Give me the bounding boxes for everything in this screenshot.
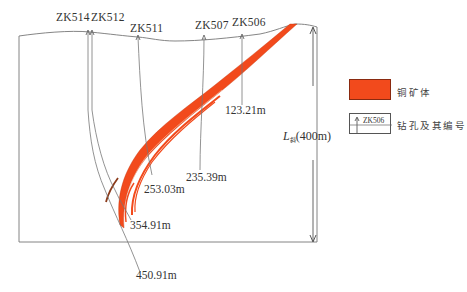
borehole-label-zk507: ZK507 <box>195 20 229 32</box>
depth-label-zk512: 354.91m <box>130 220 171 232</box>
legend-orebody-swatch <box>349 79 391 100</box>
orebody-main <box>119 24 297 228</box>
borehole-label-zk511: ZK511 <box>130 23 163 35</box>
legend-borehole-label: 钻孔及其编号 <box>397 118 466 132</box>
cross-section-diagram: ZK514 ZK512 ZK511 ZK507 ZK506 123.21m 23… <box>0 0 467 292</box>
section-drawing <box>0 0 467 292</box>
legend-borehole-symbol: ZK506 <box>349 113 391 134</box>
dimension-symbol: L <box>283 129 290 143</box>
dimension-value: (400m) <box>296 129 331 143</box>
borehole-label-zk512: ZK512 <box>91 12 125 24</box>
dimension-label: L斜(400m) <box>283 130 331 143</box>
depth-label-zk506: 123.21m <box>225 105 266 117</box>
borehole-label-zk514: ZK514 <box>56 12 90 24</box>
depth-label-zk511: 253.03m <box>144 184 185 196</box>
borehole-zk514-trace <box>88 32 140 272</box>
depth-label-zk514: 450.91m <box>136 270 177 282</box>
borehole-label-zk506: ZK506 <box>232 17 266 29</box>
depth-label-zk507: 235.39m <box>186 172 227 184</box>
legend-borehole-sample-id: ZK506 <box>363 116 384 125</box>
orebody-dark-lens <box>106 178 118 202</box>
legend-orebody-label: 铜矿体 <box>397 85 432 99</box>
